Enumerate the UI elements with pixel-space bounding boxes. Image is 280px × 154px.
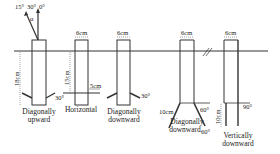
angle-down-30-label: 30° [141,92,151,99]
angle-up-30-label: 30° [55,94,65,101]
angle-30-label: 30° [27,3,37,10]
depth-15-label: 15cm [63,71,70,85]
alpha-label: α [30,15,34,22]
length-5cm-label: 5cm [90,82,101,89]
angle-60-label: 60° [201,128,211,135]
label-diagonally-upward-2: upward [28,115,51,124]
width-6cm-label: 6cm [76,29,87,36]
label-horizontal: Horizontal [65,105,97,114]
label-diagonally-downward-60-2: downward [169,125,201,134]
angle-0-label: 0° [39,3,45,10]
tube-diagonally-upward [20,8,55,106]
tube-diagonally-downward-30 [107,37,140,105]
width-6cm-label: 6cm [181,29,192,36]
angle-15-label: 15° [15,3,25,10]
label-diagonally-downward-2: downward [108,115,140,124]
label-vertically-downward-2: downward [222,139,254,148]
width-6cm-label: 6cm [225,29,236,36]
width-6cm-label: 6cm [117,29,128,36]
angle-90-label: 90° [243,103,253,110]
installation-diagram: 15° 30° 0° α 18cm 30° Diagonally upward … [0,0,280,154]
break-mark [203,48,212,56]
angle-60-label: 60° [200,106,210,113]
depth-18-label: 18cm [13,72,20,86]
length-10cm-label: 10cm [159,108,173,115]
length-10cm-label: 10cm [214,110,221,124]
